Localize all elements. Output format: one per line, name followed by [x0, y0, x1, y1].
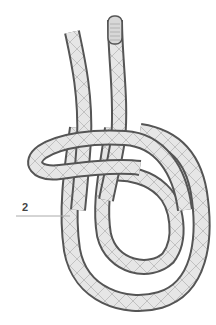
- rope-standing-part: [72, 32, 84, 210]
- knot-illustration: [0, 0, 216, 325]
- callout-label-2: 2: [22, 201, 28, 213]
